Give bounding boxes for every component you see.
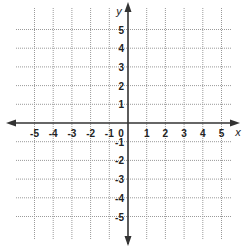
y-tick-label: -5 bbox=[115, 212, 124, 223]
y-tick-label: 2 bbox=[118, 81, 124, 92]
x-axis-label: x bbox=[234, 126, 241, 138]
x-tick-label: 5 bbox=[219, 128, 225, 139]
y-axis-label: y bbox=[115, 5, 123, 17]
x-tick-label: -4 bbox=[49, 128, 58, 139]
y-tick-label: -3 bbox=[115, 174, 124, 185]
y-axis-arrow-down-icon bbox=[125, 236, 132, 246]
y-tick-label: -2 bbox=[115, 155, 124, 166]
axes bbox=[6, 2, 240, 246]
x-tick-label: -2 bbox=[86, 128, 95, 139]
x-axis-arrow-left-icon bbox=[6, 120, 16, 127]
x-tick-label: -5 bbox=[30, 128, 39, 139]
y-tick-label: 4 bbox=[118, 43, 124, 54]
y-tick-label: 5 bbox=[118, 25, 124, 36]
x-tick-label: -1 bbox=[105, 128, 114, 139]
x-tick-label: 2 bbox=[163, 128, 169, 139]
x-tick-label: 1 bbox=[144, 128, 150, 139]
y-tick-label: 3 bbox=[118, 62, 124, 73]
y-tick-label: 1 bbox=[118, 99, 124, 110]
y-tick-label: -4 bbox=[115, 193, 124, 204]
coordinate-grid-chart: -5-4-3-2-112345 54321-1-2-3-4-5 0 x y bbox=[0, 0, 249, 248]
x-tick-label: -3 bbox=[67, 128, 76, 139]
y-axis-arrow-up-icon bbox=[125, 2, 132, 12]
x-tick-label: 3 bbox=[181, 128, 187, 139]
origin-label: 0 bbox=[118, 128, 124, 139]
x-tick-label: 4 bbox=[200, 128, 206, 139]
